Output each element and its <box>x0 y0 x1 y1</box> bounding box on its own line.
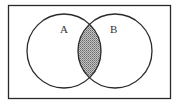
set-a-label: A <box>60 23 68 35</box>
set-b-label: B <box>110 23 117 35</box>
venn-diagram: A B <box>0 0 177 104</box>
